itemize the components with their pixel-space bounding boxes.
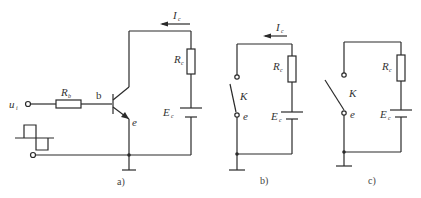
rc-label: R bbox=[381, 60, 389, 72]
switch-contact-bottom bbox=[342, 111, 346, 115]
base-label: b bbox=[96, 89, 102, 101]
switch-k-open bbox=[325, 80, 344, 110]
caption-b: b) bbox=[260, 175, 268, 187]
rc-label-sub: c bbox=[389, 67, 392, 73]
rc-label-sub: c bbox=[280, 67, 283, 73]
input-label: u bbox=[9, 98, 15, 110]
switch-contact-top bbox=[235, 75, 239, 79]
ec-label-sub: c bbox=[279, 117, 282, 123]
switch-label: K bbox=[348, 87, 357, 99]
collector-resistor bbox=[397, 55, 405, 81]
input-terminal bbox=[26, 102, 31, 107]
npn-transistor bbox=[113, 31, 129, 155]
rb-label-sub: b bbox=[68, 93, 71, 99]
emitter-label: e bbox=[132, 116, 137, 128]
ic-label-sub: c bbox=[281, 28, 284, 34]
emitter-label: e bbox=[350, 108, 355, 120]
current-arrow-icon bbox=[263, 34, 271, 39]
collector-resistor bbox=[288, 56, 296, 82]
ec-label-sub: c bbox=[171, 113, 174, 119]
switch-label: K bbox=[239, 90, 248, 102]
ec-label-sub: c bbox=[388, 115, 391, 121]
base-resistor bbox=[56, 100, 81, 108]
switch-k-closed bbox=[230, 84, 236, 112]
circuit-diagram: u i R b b e R c E c bbox=[0, 0, 421, 198]
panel-a: u i R b b e R c E c bbox=[9, 9, 202, 188]
caption-c: c) bbox=[368, 175, 376, 187]
switch-contact-bottom bbox=[235, 113, 239, 117]
current-arrow-icon bbox=[160, 22, 168, 27]
square-wave-icon bbox=[15, 125, 54, 150]
emitter-label: e bbox=[243, 110, 248, 122]
ec-label: E bbox=[162, 106, 170, 118]
rc-label: R bbox=[173, 53, 181, 65]
rb-label: R bbox=[60, 86, 68, 98]
panel-c: K e R c E c c) bbox=[325, 42, 412, 187]
rc-label: R bbox=[272, 60, 280, 72]
input-label-sub: i bbox=[16, 105, 18, 111]
switch-contact-top bbox=[342, 73, 346, 77]
ec-label: E bbox=[379, 108, 387, 120]
caption-a: a) bbox=[117, 176, 125, 188]
emitter-arrow-icon bbox=[121, 112, 129, 119]
ground-terminal bbox=[31, 153, 36, 158]
rc-label-sub: c bbox=[181, 60, 184, 66]
panel-b: K e R c E c I c b) bbox=[229, 21, 303, 187]
ic-label-sub: c bbox=[178, 16, 181, 22]
ec-label: E bbox=[270, 110, 278, 122]
collector-resistor bbox=[187, 49, 195, 74]
